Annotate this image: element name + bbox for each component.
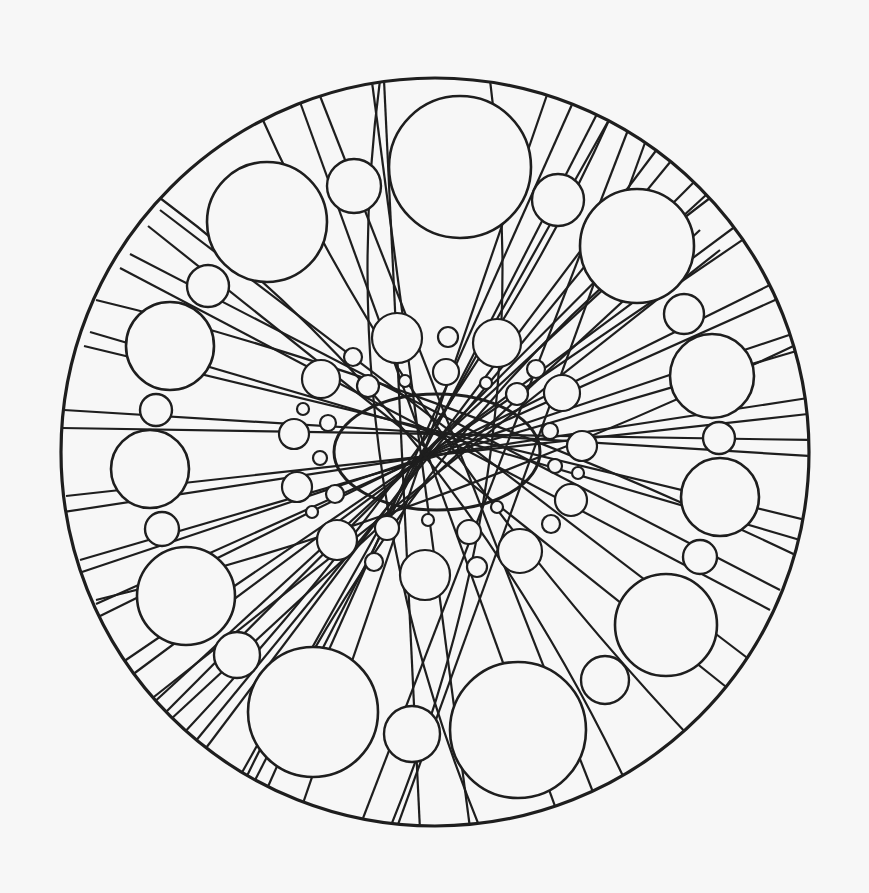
inner-circle [572,467,584,479]
inner-circle [326,485,344,503]
medium-circle [664,294,704,334]
inner-circle [480,377,492,389]
medium-circle [532,174,584,226]
inner-circle [542,515,560,533]
inner-circle [467,557,487,577]
big-circle [681,458,759,536]
big-circle [615,574,717,676]
inner-circle [375,516,399,540]
inner-circle [302,360,340,398]
inner-circle [279,419,309,449]
big-circle [248,647,378,777]
inner-circle [473,319,521,367]
inner-circle [344,348,362,366]
inner-circle [399,375,411,387]
inner-circle [433,359,459,385]
mandala-drawing [0,0,869,893]
big-circle [126,302,214,390]
inner-circle [320,415,336,431]
medium-circle [683,540,717,574]
inner-circle [506,383,528,405]
medium-circle [145,512,179,546]
inner-circle [555,484,587,516]
inner-circle [297,403,309,415]
medium-circle [187,265,229,307]
inner-circle [422,514,434,526]
medium-circle [384,706,440,762]
inner-circle [457,520,481,544]
big-circle [137,547,235,645]
inner-circle [491,501,503,513]
inner-circle [313,451,327,465]
big-circle [111,430,189,508]
medium-circle [140,394,172,426]
inner-circle [365,553,383,571]
inner-circle [438,327,458,347]
big-circle [670,334,754,418]
inner-circle [542,423,558,439]
inner-circle [548,459,562,473]
big-circle [450,662,586,798]
inner-circle [567,431,597,461]
big-circle [389,96,531,238]
big-circle [207,162,327,282]
inner-circle [527,360,545,378]
big-circle [580,189,694,303]
inner-circle [498,529,542,573]
inner-circle [357,375,379,397]
medium-circle [581,656,629,704]
medium-circle [214,632,260,678]
inner-circle [372,313,422,363]
medium-circle [327,159,381,213]
inner-circle [306,506,318,518]
inner-circle [400,550,450,600]
medium-circle [703,422,735,454]
inner-circle [317,520,357,560]
inner-circle [544,375,580,411]
inner-circle [282,472,312,502]
